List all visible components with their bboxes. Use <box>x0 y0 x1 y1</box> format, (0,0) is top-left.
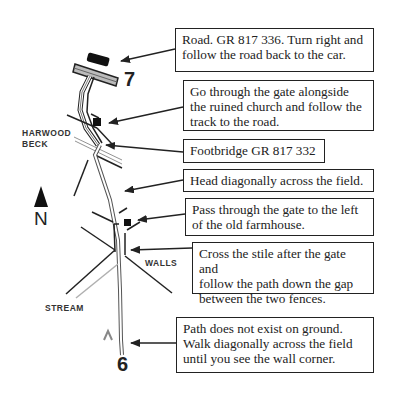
callout-no-path: Path does not exist on ground. Walk diag… <box>176 317 374 373</box>
north-label: N <box>34 208 48 230</box>
walls-label: WALLS <box>145 258 177 268</box>
callout-farmhouse-gate: Pass through the gate to the left of the… <box>185 198 374 236</box>
farmhouse-icon <box>124 219 131 226</box>
harwood-beck-label-line1: HARWOOD <box>22 128 71 138</box>
callout-ruined-church-gate: Go through the gate alongside the ruined… <box>183 80 374 131</box>
field-boundary <box>74 160 88 196</box>
ruined-church-icon <box>93 118 101 126</box>
wall-corner-mark <box>104 331 112 340</box>
track-road-to-church <box>80 76 102 145</box>
callout-head-diagonally: Head diagonally across the field. <box>183 169 374 192</box>
harwood-beck-label-line2: BECK <box>22 139 48 149</box>
stream-label: STREAM <box>45 303 84 313</box>
road <box>73 52 118 86</box>
stream <box>76 264 118 298</box>
waypoint-7-label: 7 <box>124 68 135 91</box>
main-path <box>95 145 122 355</box>
car-park-icon <box>86 52 110 66</box>
waypoint-6-label: 6 <box>117 353 128 376</box>
callout-footbridge: Footbridge GR 817 332 <box>183 139 325 163</box>
north-arrow-icon <box>34 186 48 207</box>
callout-road: Road. GR 817 336. Turn right and follow … <box>175 28 374 72</box>
callout-stile: Cross the stile after the gate and follo… <box>192 242 374 294</box>
